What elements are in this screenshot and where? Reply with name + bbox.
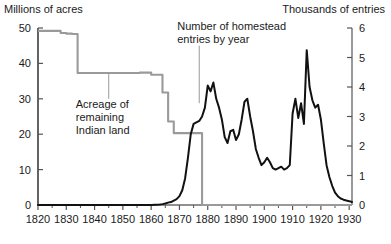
right-axis-tick-label: 2 <box>359 140 365 152</box>
left-axis-tick-label: 30 <box>19 93 31 105</box>
right-axis-tick-label: 5 <box>359 52 365 64</box>
left-axis-tick-label: 40 <box>19 57 31 69</box>
x-axis-tick-label: 1900 <box>252 213 276 225</box>
chart-container: Millions of acres Thousands of entries 0… <box>0 0 391 244</box>
indian-land-annotation-line-3: Indian land <box>76 124 130 136</box>
right-axis-tick-label: 6 <box>359 22 365 34</box>
right-axis-tick-label: 4 <box>359 81 365 93</box>
right-axis-tick-labels: 0123456 <box>359 22 365 211</box>
x-axis-tick-label: 1910 <box>280 213 304 225</box>
indian-land-annotation-line-1: Acreage of <box>76 98 130 110</box>
chart-plot-area: 01020304050 0123456 18201830184018501860… <box>0 0 391 244</box>
indian-land-annotation-line-2: remaining <box>76 111 124 123</box>
left-axis-tick-label: 0 <box>25 199 31 211</box>
x-axis-tick-label: 1850 <box>111 213 135 225</box>
x-axis-tick-label: 1870 <box>167 213 191 225</box>
x-axis-tick-label: 1920 <box>309 213 333 225</box>
x-axis-tick-label: 1830 <box>54 213 78 225</box>
x-axis-tick-label: 1840 <box>82 213 106 225</box>
x-axis-tick-label: 1860 <box>139 213 163 225</box>
left-axis-tick-label: 10 <box>19 164 31 176</box>
x-axis-tick-label: 1890 <box>224 213 248 225</box>
x-axis-tick-label: 1820 <box>26 213 50 225</box>
left-axis-tick-label: 50 <box>19 22 31 34</box>
x-axis-tick-label: 1930 <box>337 213 361 225</box>
left-axis-tick-label: 20 <box>19 128 31 140</box>
x-axis-tick-label: 1880 <box>195 213 219 225</box>
x-axis-tick-labels: 1820183018401850186018701880189019001910… <box>26 213 362 225</box>
homestead-annotation-line-2: entries by year <box>177 33 249 45</box>
right-axis-tick-label: 0 <box>359 199 365 211</box>
homestead-annotation-line-1: Number of homestead <box>177 20 286 32</box>
right-axis-tick-label: 3 <box>359 111 365 123</box>
right-axis-tick-label: 1 <box>359 170 365 182</box>
chart-annotations: Acreage of remaining Indian land Number … <box>76 20 286 136</box>
left-axis-tick-labels: 01020304050 <box>19 22 31 211</box>
